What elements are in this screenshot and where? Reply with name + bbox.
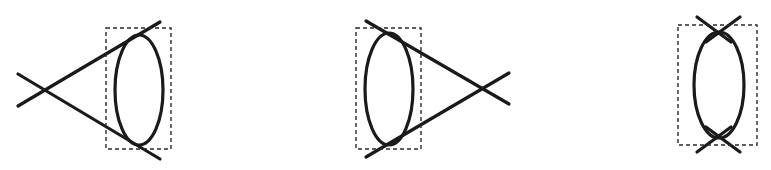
diagram-canvas — [0, 0, 771, 170]
bottom-right-leg-line — [706, 127, 740, 152]
diagram-middle — [356, 21, 509, 157]
loop-ellipse — [115, 35, 163, 145]
loop-ellipse — [365, 33, 413, 145]
top-right-leg-line — [706, 17, 740, 42]
top-left-leg-line — [697, 17, 731, 42]
bottom-left-leg-line — [697, 127, 731, 152]
loop-ellipse — [694, 32, 744, 138]
diagram-left — [18, 22, 171, 159]
diagram-right — [678, 17, 757, 152]
